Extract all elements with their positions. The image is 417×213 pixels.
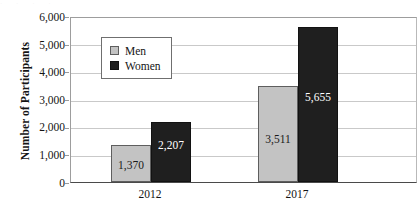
y-tick-mark-2000	[65, 128, 69, 129]
legend-label-women: Women	[125, 60, 160, 72]
x-axis-ticks: 2012 2017	[70, 188, 417, 210]
bar-men-2012[interactable]: 1,370	[111, 145, 151, 182]
y-tick-mark-4000	[65, 72, 69, 73]
y-tick-label-0: 0	[21, 178, 65, 189]
y-tick-label-6000: 6,000	[21, 12, 65, 23]
y-tick-label-5000: 5,000	[21, 40, 65, 51]
y-tick-mark-6000	[65, 17, 69, 18]
legend-item-women[interactable]: Women	[110, 58, 160, 73]
y-tick-label-3000: 3,000	[21, 95, 65, 106]
gridline-3000	[71, 101, 416, 102]
y-tick-label-1000: 1,000	[21, 150, 65, 161]
gridline-2000	[71, 128, 416, 129]
legend-label-men: Men	[125, 45, 146, 57]
bar-men-2017[interactable]: 3,511	[258, 86, 298, 182]
y-tick-mark-3000	[65, 100, 69, 101]
bar-label-women-2017: 5,655	[299, 91, 337, 103]
bar-chart: · · · · Number of Participants 6,000 5,0…	[0, 0, 417, 213]
y-axis-ticks: 6,000 5,000 4,000 3,000 2,000 1,000 0	[24, 0, 69, 213]
y-tick-mark-0	[65, 183, 69, 184]
bar-label-women-2012: 2,207	[152, 139, 190, 151]
legend-swatch-women-icon	[110, 61, 119, 70]
legend: Men Women	[101, 37, 172, 79]
bar-women-2017[interactable]: 5,655	[298, 27, 338, 182]
y-tick-mark-5000	[65, 45, 69, 46]
legend-item-men[interactable]: Men	[110, 43, 160, 58]
y-tick-label-2000: 2,000	[21, 122, 65, 133]
bar-label-men-2012: 1,370	[112, 159, 150, 171]
plot-area: 1,370 2,207 3,511 5,655 Men Women	[70, 17, 417, 183]
legend-swatch-men-icon	[110, 46, 119, 55]
bar-label-men-2017: 3,511	[259, 133, 297, 145]
x-tick-label-2017: 2017	[267, 188, 327, 200]
y-tick-label-4000: 4,000	[21, 67, 65, 78]
y-tick-mark-1000	[65, 155, 69, 156]
x-tick-label-2012: 2012	[120, 188, 180, 200]
bar-women-2012[interactable]: 2,207	[151, 122, 191, 182]
